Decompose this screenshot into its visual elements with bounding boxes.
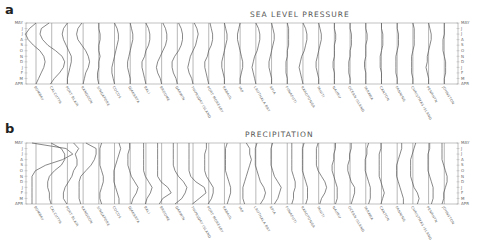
station-profile: CHRISTMAS ISLAND [410, 143, 433, 241]
station-curve [100, 143, 103, 204]
station-curve [189, 143, 206, 204]
station-profile: COCOS [112, 143, 122, 219]
y-tick-label: A [20, 157, 23, 162]
station-curve [48, 143, 65, 204]
station-profile: BOMBAY [26, 23, 45, 102]
station-profile: TAHITI [315, 23, 325, 98]
y-tick-label: O [20, 48, 23, 53]
y-tick-label: J [460, 26, 462, 31]
station-profile: APIA [269, 143, 282, 216]
station-profile: CALCUTTA [40, 23, 65, 105]
station-label: LAUTHALA BAY [253, 206, 271, 234]
station-label: BALI [143, 206, 151, 216]
station-profile: DJAKARTA [127, 23, 140, 104]
y-tick-label: J [21, 26, 23, 31]
y-tick-label: F [21, 190, 24, 195]
station-curve [173, 143, 187, 204]
y-tick-label: N [20, 174, 23, 179]
station-curve [63, 143, 78, 204]
station-profile: FUNAFUTI [284, 143, 297, 224]
station-curve [271, 143, 281, 204]
station-curve [114, 143, 121, 204]
station-label: OCEAN ISLAND [347, 86, 365, 113]
y-tick-label: O [461, 48, 464, 53]
y-tick-label: D [20, 59, 23, 64]
station-label: TARAWA [362, 85, 374, 102]
station-profile: NAURU [332, 23, 342, 100]
y-tick-label: APR [461, 81, 469, 86]
y-tick-label: APR [15, 201, 23, 206]
station-label: COCOS [112, 206, 122, 220]
station-profile: THURSDAY ISLAND [188, 23, 212, 119]
station-label: YAP [237, 86, 244, 94]
station-label: DARWIN [174, 86, 185, 102]
station-label: CANTON [379, 86, 391, 102]
y-tick-label: J [460, 185, 462, 190]
figure-canvas: a SEA LEVEL PRESSURE MAYJJASONDJFMAPRMAY… [0, 0, 491, 247]
station-profile: PENRHYN [426, 23, 439, 104]
station-label: SINGAPORE [96, 206, 111, 228]
station-curve [255, 143, 265, 204]
panel-a-sea-level-pressure: a SEA LEVEL PRESSURE MAYJJASONDJFMAPRMAY… [5, 2, 470, 121]
station-label: PORT BLAIR [65, 86, 80, 108]
station-label: FANNING [394, 206, 406, 223]
station-label: TAHITI [315, 205, 325, 219]
station-profile: TARAWA [362, 23, 374, 101]
station-profile: COCOS [112, 23, 122, 99]
station-profile: DARWIN [173, 143, 187, 221]
y-tick-label: J [21, 146, 23, 151]
station-curve [62, 23, 71, 84]
station-profile: RANGOON [79, 143, 96, 225]
y-tick-label: F [461, 70, 464, 75]
station-label: RABAUL [222, 86, 233, 101]
y-tick-label: APR [15, 81, 23, 86]
station-label: APIA [269, 86, 277, 96]
station-profile: CANTON [379, 143, 391, 222]
station-label: BALI [143, 86, 151, 96]
y-tick-label: O [20, 168, 23, 173]
station-label: NAURU [332, 86, 342, 100]
station-profile: LAUTHALA BAY [252, 23, 271, 113]
station-label: BROOME [159, 86, 171, 103]
y-tick-label: J [21, 151, 23, 156]
y-tick-label: F [21, 70, 24, 75]
station-profile: OCEAN ISLAND [347, 23, 365, 113]
station-label: PENRHYN [426, 86, 439, 104]
station-label: RAROTONGA [300, 206, 316, 230]
y-tick-label: J [460, 65, 462, 70]
y-tick-label: D [461, 179, 464, 184]
y-tick-label: M [20, 196, 24, 201]
y-tick-label: S [20, 42, 23, 47]
station-profile: NAURU [332, 143, 342, 220]
station-curve [79, 143, 96, 204]
y-tick-label: MAY [461, 20, 470, 25]
station-profile: SINGAPORE [96, 143, 111, 227]
y-tick-label: APR [461, 201, 469, 206]
y-tick-label: J [460, 146, 462, 151]
station-curve [144, 143, 153, 204]
station-profile: APIA [269, 23, 277, 96]
panel-letter-a: a [5, 2, 14, 17]
station-profile: CANTON [379, 23, 391, 102]
station-label: RAROTONGA [300, 86, 316, 110]
y-tick-label: J [21, 65, 23, 70]
station-profile: BROOME [156, 23, 170, 102]
y-tick-label: MAY [15, 140, 24, 145]
panel-letter-b: b [5, 121, 14, 136]
station-profile: SINGAPORE [96, 23, 111, 107]
station-label: DJAKARTA [127, 86, 140, 105]
panel-title-b: PRECIPITATION [245, 130, 314, 139]
station-profile: PORT MORESBY [205, 23, 225, 114]
station-profile: RABAUL [222, 23, 233, 101]
y-tick-label: O [461, 168, 464, 173]
station-profile: OCEAN ISLAND [347, 143, 365, 233]
station-profile: YAP [237, 23, 244, 94]
panel-title-a: SEA LEVEL PRESSURE [250, 10, 350, 19]
station-label: RABAUL [222, 206, 233, 221]
station-label: PENRHYN [426, 206, 439, 224]
station-profile: CALCUTTA [48, 143, 65, 225]
station-profile: FANNING [394, 143, 406, 223]
station-label: OCEAN ISLAND [347, 206, 365, 233]
station-label: CALCUTTA [49, 206, 63, 226]
station-label: CALCUTTA [49, 86, 63, 106]
